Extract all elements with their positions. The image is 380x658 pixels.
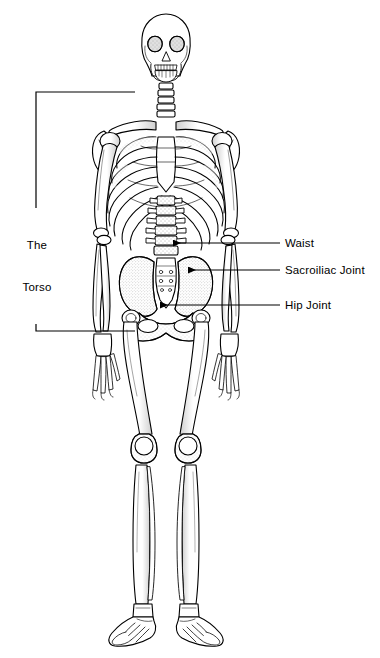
skeleton-diagram: The Torso Waist Sacroiliac Joint Hip Joi… [0, 0, 380, 658]
callout-label-waist: Waist [285, 236, 314, 250]
torso-bracket-label: The Torso [12, 208, 62, 324]
skull-group [142, 14, 191, 82]
sternum-group [157, 137, 176, 192]
callout-label-hip-joint: Hip Joint [285, 298, 331, 312]
callout-label-sacroiliac-joint: Sacroiliac Joint [285, 263, 365, 277]
lumbar-vertebrae-group [146, 196, 186, 255]
torso-label-line-2: Torso [13, 280, 61, 294]
skeleton-illustration [0, 0, 380, 658]
cervical-vertebrae-group [157, 83, 175, 117]
torso-label-line-1: The [13, 238, 61, 252]
